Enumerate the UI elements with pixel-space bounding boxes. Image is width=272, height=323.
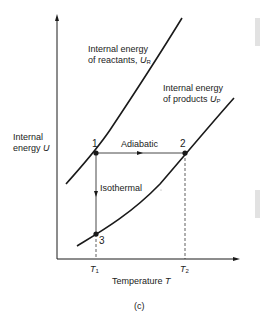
point-1-marker: [93, 150, 98, 155]
isothermal-arrow-icon: [94, 191, 98, 197]
reactants-label-line2: of reactants, UR: [88, 55, 151, 68]
products-label: Internal energy of products UP: [163, 83, 223, 107]
point-2-label: 2: [180, 138, 186, 149]
x-tick-t2: T2: [180, 264, 189, 277]
x-tick-t1: T1: [90, 264, 99, 277]
y-axis-label-line2: energy U: [13, 143, 50, 154]
point-3-label: 3: [99, 235, 105, 246]
y-axis-arrow-icon: [55, 14, 59, 21]
adiabatic-label: Adiabatic: [121, 139, 158, 150]
figure-caption: (c): [134, 301, 145, 312]
point-2-marker: [182, 150, 187, 155]
products-label-line1: Internal energy: [163, 83, 223, 94]
stray-mark: [161, 190, 162, 191]
isothermal-label: Isothermal: [100, 183, 142, 194]
margin-artifact-bottom: [255, 190, 260, 218]
x-axis-label: Temperature T: [112, 276, 171, 287]
adiabatic-arrow-icon: [137, 151, 143, 155]
x-axis-arrow-icon: [233, 257, 240, 261]
y-axis-label: Internal energy U: [13, 132, 50, 154]
products-curve: [77, 98, 234, 246]
reactants-label: Internal energy of reactants, UR: [88, 44, 151, 68]
margin-artifact-top: [255, 18, 260, 46]
products-label-line2: of products UP: [163, 94, 223, 107]
reactants-label-line1: Internal energy: [88, 44, 151, 55]
point-1-label: 1: [92, 138, 98, 149]
y-axis-label-line1: Internal: [13, 132, 50, 143]
point-3-marker: [93, 231, 98, 236]
energy-temperature-diagram: Internal energy of reactants, UR Interna…: [0, 0, 272, 323]
